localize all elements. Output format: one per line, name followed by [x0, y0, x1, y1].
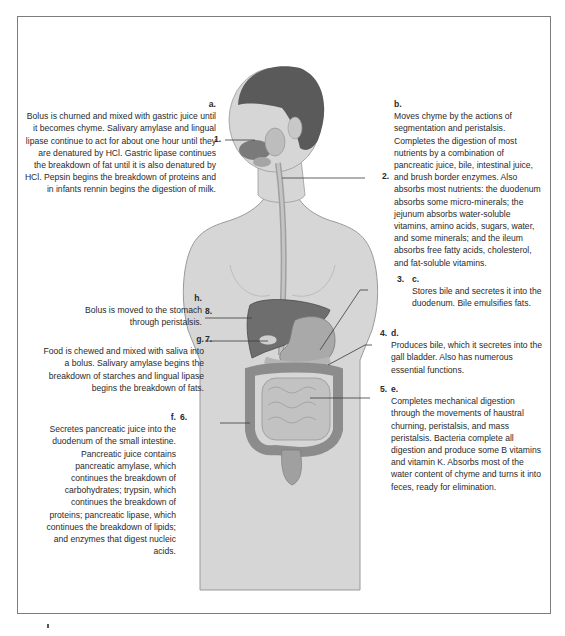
callout-f: f. Secretes pancreatic juice into the du… — [40, 411, 176, 557]
callout-3-number: 3. — [397, 273, 404, 285]
callout-f-text: Secretes pancreatic juice into the duode… — [47, 424, 176, 556]
callout-c-text: Stores bile and secretes it into the duo… — [412, 286, 541, 308]
callout-c-letter: c. — [412, 273, 546, 285]
callout-e-letter: e. — [391, 383, 546, 395]
callout-a-letter: a. — [24, 98, 216, 110]
callout-8-number: 8. — [205, 305, 212, 317]
callout-b-letter: b. — [394, 98, 544, 110]
callout-d-letter: d. — [391, 327, 543, 339]
callout-1-number: 1. — [214, 133, 221, 145]
callout-d: d. Produces bile, which it secretes into… — [391, 327, 543, 376]
callout-g: g. Food is chewed and mixed with saliva … — [40, 333, 204, 394]
callout-b: b. Moves chyme by the actions of segment… — [394, 98, 544, 269]
callout-a: a. Bolus is churned and mixed with gastr… — [24, 98, 216, 196]
callout-a-text: Bolus is churned and mixed with gastric … — [25, 111, 216, 194]
callout-6-number: 6. — [180, 411, 187, 423]
callout-g-letter: g. — [40, 333, 204, 345]
callout-2-number: 2. — [382, 170, 389, 182]
callout-d-text: Produces bile, which it secretes into th… — [391, 340, 542, 374]
callout-4-number: 4. — [380, 327, 387, 339]
ear — [288, 117, 302, 139]
callout-e-text: Completes mechanical digestion through t… — [391, 396, 541, 491]
callout-c: c. Stores bile and secretes it into the … — [412, 273, 546, 310]
page-mark — [47, 624, 49, 628]
callout-g-text: Food is chewed and mixed with saliva int… — [44, 346, 205, 393]
callout-e: e. Completes mechanical digestion throug… — [391, 383, 546, 493]
callout-5-number: 5. — [380, 383, 387, 395]
small-intestine — [262, 378, 330, 440]
callout-7-number: 7. — [205, 333, 212, 345]
callout-b-text: Moves chyme by the actions of segmentati… — [394, 111, 541, 267]
callout-h-letter: h. — [60, 292, 202, 304]
callout-h-text: Bolus is moved to the stomach through pe… — [85, 305, 202, 327]
callout-h: h. Bolus is moved to the stomach through… — [60, 292, 202, 329]
gallbladder — [259, 335, 277, 345]
callout-f-letter: f. — [40, 411, 176, 423]
